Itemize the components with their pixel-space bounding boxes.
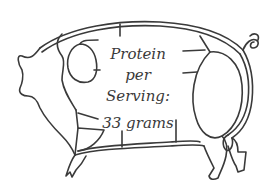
- protein-value: 33 grams: [92, 113, 184, 134]
- ham-cut: [193, 52, 242, 138]
- head-outline: [18, 48, 75, 155]
- label-line-per: per: [92, 65, 184, 86]
- label-line-serving: Serving:: [92, 86, 184, 107]
- label-line-protein: Protein: [92, 44, 184, 65]
- hind-leg-back: [228, 138, 246, 172]
- front-leg: [66, 155, 86, 177]
- sirloin-line-2: [183, 72, 197, 73]
- pig-protein-diagram: Protein per Serving: 33 grams: [0, 0, 274, 195]
- belly-outer-line: [75, 145, 204, 155]
- jowl-line: [58, 34, 77, 110]
- sirloin-line-1: [183, 50, 205, 51]
- tail-icon: [243, 34, 258, 50]
- protein-label: Protein per Serving: 33 grams: [92, 44, 184, 134]
